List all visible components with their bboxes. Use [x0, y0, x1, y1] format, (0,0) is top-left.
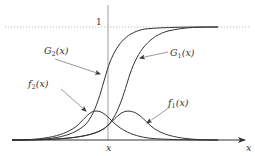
pointer-f1 — [147, 107, 170, 123]
label-f1: f1(x) — [167, 97, 189, 110]
label-G1: G1(x) — [170, 47, 195, 60]
distribution-diagram: 1 G2(x) G1(x) f2(x) f1(x) x x — [0, 0, 255, 156]
pointer-f2 — [61, 89, 86, 111]
x-tick-label: x — [106, 142, 112, 153]
label-G2: G2(x) — [44, 45, 69, 58]
x-axis-label: x — [246, 142, 252, 153]
pointer-G2 — [55, 59, 100, 74]
pointer-G1 — [140, 52, 168, 58]
level-one-label: 1 — [96, 17, 102, 27]
label-f2: f2(x) — [27, 78, 49, 91]
